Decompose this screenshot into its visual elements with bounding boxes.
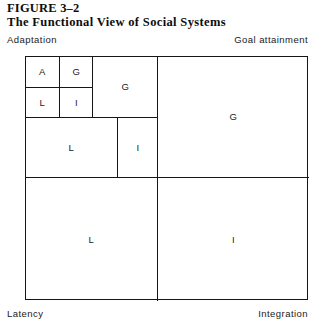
- corner-label-latency: Latency: [7, 308, 43, 319]
- minicell-integration-letter: I: [75, 98, 78, 108]
- quadrant-latency: L: [26, 178, 158, 301]
- minicell-goal-attainment-letter: G: [73, 67, 81, 77]
- minicell-adaptation: A: [26, 57, 60, 88]
- minicell-latency-letter: L: [40, 98, 46, 108]
- corner-label-integration: Integration: [258, 308, 308, 319]
- minicell-integration: I: [60, 88, 93, 118]
- subcell-goal-attainment-letter: G: [122, 82, 130, 92]
- quadrant-integration-letter: I: [232, 235, 235, 245]
- quadrant-adaptation: A G L I G L I: [26, 57, 158, 178]
- subcell-latency-letter: L: [69, 143, 75, 153]
- quadrant-goal-attainment-letter: G: [230, 112, 238, 122]
- subcell-adaptation: A G L I: [26, 57, 93, 118]
- minicell-adaptation-letter: A: [39, 67, 46, 77]
- corner-label-adaptation: Adaptation: [7, 34, 57, 45]
- figure-title: The Functional View of Social Systems: [7, 15, 327, 30]
- subcell-integration: I: [118, 118, 158, 178]
- minicell-latency: L: [26, 88, 60, 118]
- figure-number: FIGURE 3–2: [7, 1, 327, 15]
- figure-header: FIGURE 3–2 The Functional View of Social…: [7, 1, 327, 30]
- minicell-goal-attainment: G: [60, 57, 93, 88]
- subcell-integration-letter: I: [136, 143, 139, 153]
- subcell-goal-attainment: G: [93, 57, 158, 118]
- quadrant-latency-letter: L: [89, 235, 95, 245]
- corner-label-goal-attainment: Goal attainment: [234, 34, 308, 45]
- subcell-latency: L: [26, 118, 118, 178]
- quadrant-goal-attainment: G: [158, 57, 309, 178]
- quadrant-integration: I: [158, 178, 309, 301]
- agil-diagram: A G L I G L I G L I: [25, 56, 308, 300]
